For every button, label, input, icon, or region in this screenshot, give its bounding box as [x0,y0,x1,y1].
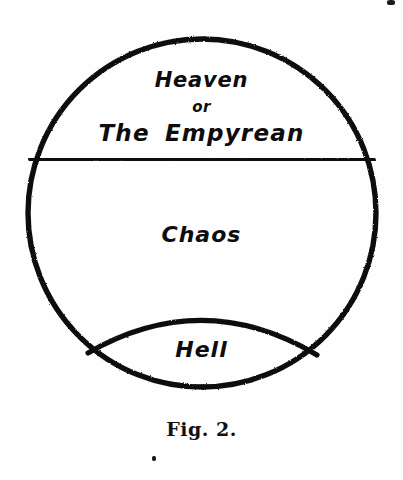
region-label-hell: Hell [0,339,403,361]
figure-caption: Fig. 2. [0,418,403,440]
ink-speck-top-right [387,0,395,5]
region-label-heaven: Heaven [0,70,403,91]
ink-speck-below-caption [152,456,156,461]
region-label-chaos: Chaos [0,224,403,246]
region-label-empyrean: The Empyrean [0,122,403,145]
region-label-or: or [0,100,403,115]
figure-page: Heaven or The Empyrean Chaos Hell Fig. 2… [0,0,403,480]
heaven-chaos-divider-line [31,159,374,160]
